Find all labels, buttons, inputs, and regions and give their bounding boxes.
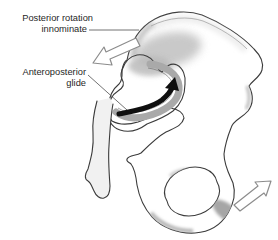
- label-posterior-rotation: Posterior rotation innominate: [0, 13, 93, 35]
- label-posterior-rotation-line2: innominate: [0, 24, 93, 35]
- label-posterior-rotation-line1: Posterior rotation: [0, 13, 93, 24]
- pelvis-illustration: [0, 0, 278, 240]
- label-anteroposterior-glide-line1: Anteroposterior: [0, 67, 86, 78]
- figure: Posterior rotation innominate Anteropost…: [0, 0, 278, 240]
- rotation-direction-arrow-icon: [234, 181, 271, 211]
- label-anteroposterior-glide: Anteroposterior glide: [0, 67, 86, 89]
- label-anteroposterior-glide-line2: glide: [0, 78, 86, 89]
